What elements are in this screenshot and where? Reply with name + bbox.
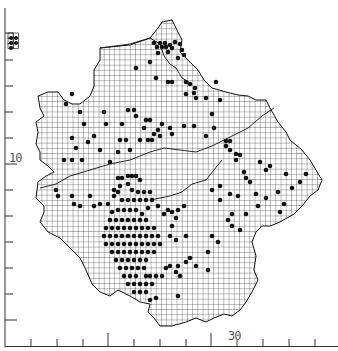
record-dot	[132, 218, 137, 223]
record-dot	[164, 45, 169, 50]
record-dot	[146, 242, 151, 247]
record-dot	[214, 80, 219, 85]
record-dot	[282, 202, 287, 207]
record-dot	[182, 124, 187, 129]
record-dot	[130, 188, 135, 193]
record-dot	[154, 296, 159, 301]
record-dot	[158, 41, 163, 46]
record-dot	[155, 45, 160, 50]
record-dot	[138, 258, 143, 263]
record-dot	[142, 190, 147, 195]
record-dot	[130, 266, 135, 271]
record-dot	[193, 86, 198, 91]
record-dot	[264, 196, 269, 201]
record-dot	[138, 290, 143, 295]
record-dot	[128, 208, 133, 213]
record-dot	[144, 274, 149, 279]
record-dot	[152, 132, 157, 137]
record-dot	[138, 178, 143, 183]
record-dot	[276, 190, 281, 195]
record-dot	[64, 102, 69, 107]
record-dot	[152, 250, 157, 255]
record-dot	[78, 204, 83, 209]
record-dot	[14, 36, 18, 40]
record-dot	[126, 218, 131, 223]
record-dot	[110, 226, 115, 231]
record-dot	[144, 234, 149, 239]
record-dot	[176, 294, 181, 299]
record-dot	[128, 274, 133, 279]
record-dot	[206, 250, 211, 255]
record-dot	[184, 92, 189, 97]
record-dot	[136, 266, 141, 271]
record-dot	[218, 98, 223, 103]
record-dot	[116, 208, 121, 213]
record-dot	[138, 282, 143, 287]
record-dot	[148, 60, 153, 65]
record-dot	[132, 290, 137, 295]
record-dot	[160, 274, 165, 279]
record-dot	[108, 234, 113, 239]
record-dot	[148, 274, 153, 279]
record-dot	[134, 250, 139, 255]
record-dot	[112, 194, 117, 199]
record-dot	[298, 180, 303, 185]
record-dot	[138, 138, 143, 143]
record-dot	[158, 242, 163, 247]
record-dot	[264, 168, 269, 173]
record-dot	[188, 82, 193, 87]
record-dot	[9, 36, 13, 40]
y-axis-label: 10	[9, 151, 21, 165]
record-dot	[126, 174, 131, 179]
record-dot	[228, 148, 233, 153]
record-dot	[156, 234, 161, 239]
record-dot	[144, 218, 149, 223]
record-dot	[210, 188, 215, 193]
record-dot	[244, 176, 249, 181]
record-dot	[210, 234, 215, 239]
record-dot	[234, 152, 239, 157]
record-dot	[134, 114, 139, 119]
record-dot	[218, 198, 223, 203]
record-dot	[174, 238, 179, 243]
record-dot	[258, 160, 263, 165]
record-dot	[230, 212, 235, 217]
record-dot	[154, 76, 159, 81]
record-dot	[168, 264, 173, 269]
record-dot	[56, 194, 61, 199]
record-dot	[120, 234, 125, 239]
record-dot	[192, 124, 197, 129]
record-dot	[218, 184, 223, 189]
record-dot	[178, 42, 183, 47]
record-dot	[126, 108, 131, 113]
record-dot	[70, 158, 75, 163]
record-dot	[168, 126, 173, 131]
record-dot	[116, 250, 121, 255]
record-dot	[132, 282, 137, 287]
record-dot	[138, 218, 143, 223]
record-dot	[86, 140, 91, 145]
record-dot	[290, 186, 295, 191]
record-dot	[120, 198, 125, 203]
record-dot	[108, 160, 113, 165]
record-dot	[102, 110, 107, 115]
record-dot	[122, 274, 127, 279]
record-dot	[134, 242, 139, 247]
record-dot	[120, 122, 125, 127]
record-dot	[178, 274, 183, 279]
record-dot	[132, 234, 137, 239]
record-dot	[170, 46, 175, 51]
record-dot	[278, 210, 283, 215]
record-dot	[206, 268, 211, 273]
record-dot	[14, 41, 18, 45]
record-dot	[110, 210, 115, 215]
record-dot	[144, 282, 149, 287]
record-dot	[114, 218, 119, 223]
record-dot	[72, 202, 77, 207]
record-dot	[216, 240, 221, 245]
record-dot	[224, 144, 229, 149]
distribution-map	[0, 0, 338, 351]
record-dot	[116, 150, 121, 155]
record-dot	[70, 92, 75, 97]
record-dot	[194, 264, 199, 269]
